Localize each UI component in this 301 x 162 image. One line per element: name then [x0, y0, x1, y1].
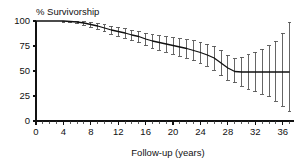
x-tick-label: 12 [113, 126, 124, 137]
x-tick-label: 20 [168, 126, 179, 137]
survivorship-chart: 025507510004812162024283236 % Survivorsh… [0, 0, 301, 162]
y-tick-label: 100 [14, 15, 30, 26]
x-tick-label: 36 [277, 126, 288, 137]
y-tick-label: 25 [19, 90, 30, 101]
y-axis-title: % Survivorship [36, 6, 99, 17]
y-tick-label: 0 [25, 115, 30, 126]
x-tick-label: 28 [223, 126, 234, 137]
y-tick-label: 75 [19, 40, 30, 51]
x-tick-label: 0 [33, 126, 38, 137]
x-tick-label: 16 [140, 126, 151, 137]
x-tick-label: 8 [88, 126, 93, 137]
axis-ticks-group [33, 21, 290, 125]
x-axis-title: Follow-up (years) [131, 147, 204, 158]
error-bars-group [62, 21, 292, 111]
survivorship-curve [36, 21, 290, 72]
x-tick-label: 4 [61, 126, 66, 137]
y-tick-label: 50 [19, 65, 30, 76]
x-tick-label: 24 [195, 126, 206, 137]
axis-tick-labels-group: 025507510004812162024283236 [14, 15, 288, 137]
chart-canvas: 025507510004812162024283236 % Survivorsh… [0, 0, 301, 162]
x-tick-label: 32 [250, 126, 261, 137]
